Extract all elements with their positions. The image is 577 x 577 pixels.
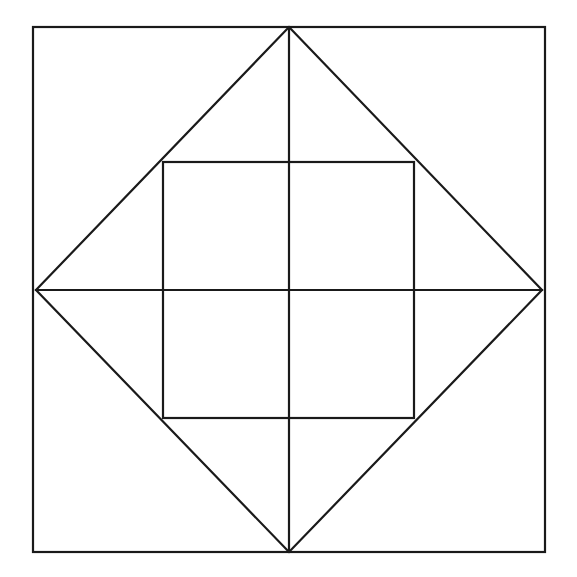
geometric-figure-canvas: A large axis-aligned outer square contai…	[0, 0, 577, 577]
